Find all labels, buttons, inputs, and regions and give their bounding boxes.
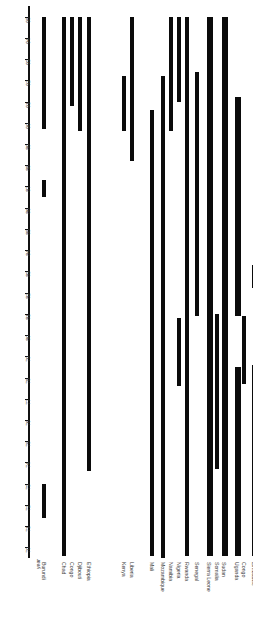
category-label: Sudan (220, 562, 226, 577)
bar-segment (161, 76, 165, 558)
bar-segment (42, 17, 46, 130)
category-label: Somalia (213, 562, 219, 581)
category-label: Uganda (233, 562, 239, 580)
bar-segment (87, 17, 91, 471)
category-label: Liberia (128, 562, 134, 578)
category-label: Kenya (120, 562, 126, 577)
category-label: Senegal (193, 562, 199, 581)
category-label: Namibia (167, 562, 173, 581)
bar-segment (169, 17, 173, 132)
bar-segment (215, 314, 219, 469)
category-label: Chad (60, 562, 66, 574)
category-label: Ethiopia (85, 562, 91, 581)
category-label: Congo (240, 562, 246, 577)
bar-segment (195, 72, 199, 316)
bar-segment (70, 17, 74, 106)
category-label: Congo (68, 562, 74, 577)
category-label: Rwanda (183, 562, 189, 581)
category-label: Mali (148, 562, 154, 572)
bar-segment (207, 89, 213, 556)
bar-segment (222, 17, 228, 316)
category-label: Zimbabwe (250, 562, 253, 586)
category-label: Sierra Leone (205, 562, 211, 592)
bar-segment (252, 365, 253, 556)
bar-segment (122, 76, 126, 131)
bar-segment (42, 180, 46, 197)
gantt-chart: 9594939291908988878685848382818079787776… (0, 0, 253, 627)
bar-segment (252, 265, 253, 288)
bar-segment (207, 17, 213, 89)
bar-segment (62, 17, 66, 556)
bar-segment (130, 17, 134, 161)
plot-area (30, 0, 253, 560)
bar-segment (150, 110, 154, 556)
category-label: Nigeria (175, 562, 181, 578)
bar-segment (177, 17, 181, 102)
bar-segment (78, 17, 82, 132)
category-label: Djibouti (76, 562, 82, 579)
category-label: Burundi (40, 562, 46, 580)
category-label-group: BurundiChadCongoDjiboutiEthiopiaKenyaLib… (30, 560, 253, 627)
bar-segment (177, 318, 181, 386)
category-label: Mozambique (159, 562, 165, 592)
bar-segment (42, 484, 46, 518)
bar-segment (235, 367, 241, 556)
bar-segment (185, 17, 189, 556)
bar-segment (242, 316, 246, 384)
bar-segment (222, 316, 228, 556)
bar-segment (235, 97, 241, 316)
